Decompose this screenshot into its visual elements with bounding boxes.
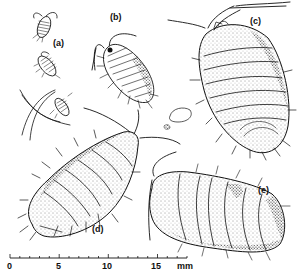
specimen-a2 [34, 52, 60, 79]
label-c: (c) [250, 17, 261, 26]
specimen-c [168, 2, 296, 160]
specimen-b [92, 34, 158, 108]
specimen-e [149, 152, 290, 260]
scale-bar [10, 254, 187, 258]
label-b: (b) [110, 13, 122, 22]
label-d: (d) [92, 225, 104, 234]
label-a: (a) [53, 39, 64, 48]
scale-tick-0: 0 [7, 262, 12, 271]
debris [164, 108, 191, 129]
scale-unit: mm [177, 262, 193, 271]
scale-tick-15: 15 [151, 262, 161, 271]
scale-tick-5: 5 [56, 262, 61, 271]
scale-tick-10: 10 [102, 262, 112, 271]
isopod-illustration: (a) (b) (c) (d) (e) 0 5 10 15 mm [0, 0, 299, 271]
label-e: (e) [258, 186, 269, 195]
specimen-a3 [20, 90, 72, 140]
